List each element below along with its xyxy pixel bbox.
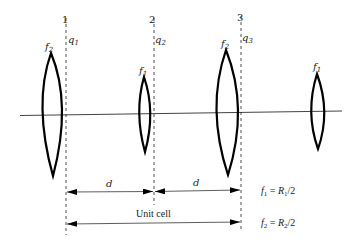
lens-system-diagram: 1 2 3 q1 q2 q3 f2 f1 f2 f1 d d Unit cell… [0, 0, 354, 245]
lens-label-3: f2 [220, 38, 230, 51]
plane-number-2: 2 [149, 14, 155, 25]
dimension-arrow-d-2 [155, 190, 240, 192]
optical-axis [20, 111, 342, 116]
unit-cell-label: Unit cell [136, 208, 171, 219]
equation-f2: f2 = R2/2 [261, 217, 295, 230]
plane-number-1: 1 [62, 14, 68, 25]
lens-label-1: f2 [44, 41, 54, 54]
lens-label-2: f1 [138, 65, 147, 78]
plane-q-label-1: q1 [68, 34, 79, 47]
plane-q-label-2: q2 [155, 34, 166, 47]
dimension-label-d-1: d [106, 178, 112, 189]
dimension-label-d-2: d [193, 177, 199, 188]
plane-number-3: 3 [237, 12, 243, 23]
lens-label-4: f1 [312, 61, 321, 74]
equation-f1: f1 = R1/2 [261, 185, 295, 198]
dimension-arrow-d-1 [67, 192, 153, 193]
unit-cell-arrow [67, 222, 240, 224]
lens-f1-1 [139, 77, 150, 152]
plane-q-label-3: q3 [242, 32, 253, 45]
